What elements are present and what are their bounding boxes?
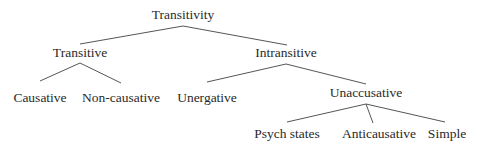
node-unaccusative: Unaccusative — [330, 86, 403, 100]
edge-unaccusative-anticausative — [366, 104, 373, 123]
node-psych-states: Psych states — [254, 127, 320, 141]
tree-edges — [0, 0, 477, 147]
node-transitive: Transitive — [53, 46, 107, 60]
edge-intransitive-unergative — [207, 64, 286, 82]
edge-transitive-noncausative — [80, 63, 121, 83]
edge-root-intransitive — [183, 26, 287, 45]
node-unergative: Unergative — [177, 91, 237, 105]
node-simple: Simple — [428, 127, 466, 141]
edge-intransitive-unaccusative — [286, 64, 366, 84]
node-causative: Causative — [13, 91, 66, 105]
transitivity-tree-diagram: Transitivity Transitive Intransitive Cau… — [0, 0, 477, 147]
edge-unaccusative-simple — [366, 104, 445, 122]
edge-transitive-causative — [40, 63, 80, 81]
edge-unaccusative-psych — [287, 104, 366, 122]
edge-root-transitive — [80, 26, 183, 44]
node-non-causative: Non-causative — [82, 91, 160, 105]
node-intransitive: Intransitive — [255, 46, 316, 60]
node-anticausative: Anticausative — [342, 127, 416, 141]
node-transitivity: Transitivity — [152, 8, 215, 22]
